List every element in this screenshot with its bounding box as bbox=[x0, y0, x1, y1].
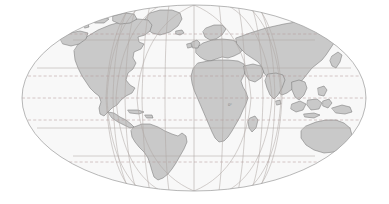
equator-degree-label: 0° bbox=[228, 102, 232, 107]
world-map-svg: 0° bbox=[0, 0, 389, 204]
world-map-figure: 0° bbox=[0, 0, 389, 204]
landmass-ireland bbox=[187, 43, 192, 48]
landmass-sri-lanka bbox=[276, 100, 281, 105]
